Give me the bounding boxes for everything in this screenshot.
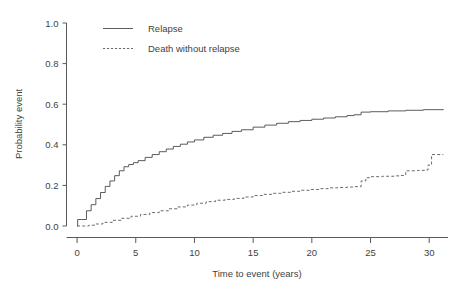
y-tick-label: 0.8 xyxy=(45,58,58,69)
y-axis-title: Probability event xyxy=(13,89,24,160)
cumulative-incidence-chart: 0.00.20.40.60.81.0 Probability event 051… xyxy=(0,0,469,293)
y-tick-label: 1.0 xyxy=(45,18,58,29)
y-tick-label: 0.6 xyxy=(45,99,58,110)
x-axis-title: Time to event (years) xyxy=(212,268,301,279)
x-tick-label: 25 xyxy=(365,247,376,258)
y-tick-label: 0.0 xyxy=(45,221,58,232)
x-tick-label: 30 xyxy=(424,247,435,258)
chart-svg: 0.00.20.40.60.81.0 Probability event 051… xyxy=(0,0,469,293)
x-tick-label: 20 xyxy=(307,247,318,258)
x-tick-label: 0 xyxy=(74,247,79,258)
x-tick-label: 10 xyxy=(189,247,200,258)
legend-label-relapse: Relapse xyxy=(148,23,183,34)
legend-label-death-without-relapse: Death without relapse xyxy=(148,43,240,54)
y-tick-label: 0.4 xyxy=(45,139,58,150)
y-tick-label: 0.2 xyxy=(45,180,58,191)
x-tick-label: 15 xyxy=(248,247,259,258)
x-tick-label: 5 xyxy=(133,247,138,258)
